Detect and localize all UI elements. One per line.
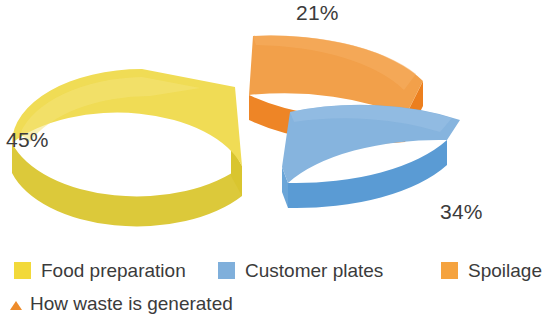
legend-label-food-preparation: Food preparation [41, 261, 186, 280]
pie-slice-customer-plates[interactable] [282, 105, 460, 208]
legend-swatch-spoilage [441, 262, 458, 279]
pie-slice-food-preparation-side [12, 143, 242, 226]
pie-label-customer-plates: 34% [440, 200, 483, 224]
chart-caption-text: How waste is generated [30, 294, 233, 313]
legend-swatch-food-preparation [14, 262, 31, 279]
legend-item-customer-plates[interactable]: Customer plates [218, 257, 383, 283]
triangle-up-icon [10, 301, 22, 310]
chart-caption: How waste is generated [10, 293, 233, 314]
legend-item-spoilage[interactable]: Spoilage [441, 257, 542, 283]
pie-label-spoilage: 21% [296, 1, 339, 25]
chart-legend: Food preparation Customer plates Spoilag… [0, 252, 520, 288]
legend-swatch-customer-plates [218, 262, 235, 279]
pie-label-food-preparation: 45% [6, 128, 49, 152]
pie-chart-plot-area: 21% 45% 34% [0, 0, 520, 248]
legend-label-customer-plates: Customer plates [245, 261, 383, 280]
legend-item-food-preparation[interactable]: Food preparation [14, 257, 186, 283]
legend-label-spoilage: Spoilage [468, 261, 542, 280]
